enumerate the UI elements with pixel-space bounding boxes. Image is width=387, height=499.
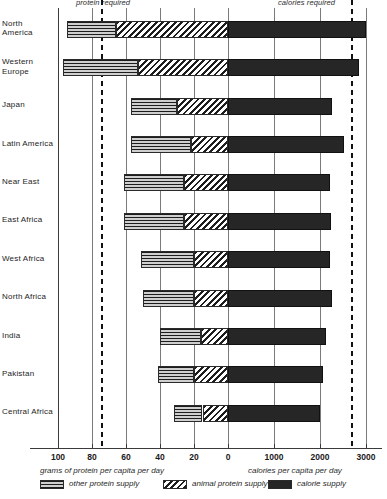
axis-tick-label-1000: 1000 [254,452,294,462]
segment-animal-protein [203,405,229,422]
segment-other-protein [131,136,191,153]
segment-calorie-supply [228,174,330,191]
axis-tick-80 [92,444,93,448]
segment-animal-protein [201,328,228,345]
axis-tick-2000 [320,444,321,448]
legend-swatch-horizontal-lines [40,480,64,489]
segment-animal-protein [191,136,228,153]
axis-tick-1000 [274,444,275,448]
segment-other-protein [158,366,194,383]
segment-calorie-supply [228,366,323,383]
segment-animal-protein [194,290,228,307]
legend-label: calorie supply [297,479,346,488]
left-axis-caption: grams of protein per capita per day [40,466,164,475]
segment-calorie-supply [228,328,326,345]
segment-calorie-supply [228,136,344,153]
segment-animal-protein [177,98,228,115]
right-axis-caption: calories per capita per day [248,466,342,475]
segment-other-protein [124,213,184,230]
segment-other-protein [131,98,177,115]
legend-label: other protein supply [69,479,139,488]
segment-other-protein [143,290,194,307]
category-axis-line [58,8,59,448]
segment-other-protein [67,21,116,38]
segment-other-protein [174,405,203,422]
segment-other-protein [124,174,184,191]
segment-calorie-supply [228,213,331,230]
axis-tick-label-3000: 3000 [346,452,386,462]
segment-calorie-supply [228,290,332,307]
axis-tick-0 [228,444,229,448]
segment-calorie-supply [228,251,330,268]
axis-tick-label-2000: 2000 [300,452,340,462]
legend-swatch-diagonal-hatch [163,480,187,489]
axis-tick-20 [194,444,195,448]
segment-other-protein [63,59,138,76]
axis-tick-3000 [366,444,367,448]
segment-calorie-supply [228,405,320,422]
segment-other-protein [160,328,201,345]
segment-animal-protein [184,174,228,191]
chart-root: protein required calories required North… [0,0,387,499]
segment-calorie-supply [228,98,332,115]
axis-tick-60 [126,444,127,448]
segment-animal-protein [184,213,228,230]
legend-label: animal protein supply [192,479,268,488]
segment-calorie-supply [228,21,366,38]
segment-animal-protein [194,366,228,383]
segment-animal-protein [116,21,228,38]
axis-tick-40 [160,444,161,448]
segment-animal-protein [138,59,228,76]
segment-other-protein [141,251,194,268]
legend: other protein supplyanimal protein suppl… [0,478,387,499]
legend-swatch-solid-dark [268,480,292,489]
axis-baseline [30,448,382,449]
calories-required-label: calories required [278,0,335,7]
axis-tick-label-0: 0 [208,452,248,462]
segment-calorie-supply [228,59,359,76]
segment-animal-protein [194,251,228,268]
